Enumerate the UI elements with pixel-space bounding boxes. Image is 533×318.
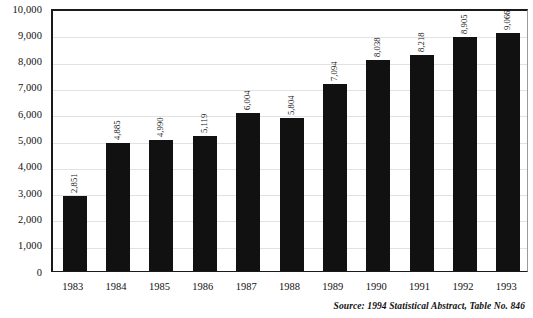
- bar-value-label: 8,218: [417, 22, 427, 52]
- y-axis-tick-label: 4,000: [18, 161, 42, 172]
- y-axis-tick-label: 0: [37, 267, 42, 278]
- bar-group[interactable]: 8,218: [410, 8, 434, 271]
- bar-group[interactable]: 6,004: [236, 8, 260, 271]
- bar-value-label: 8,038: [373, 27, 383, 57]
- bar[interactable]: [496, 33, 520, 271]
- bar[interactable]: [236, 113, 260, 271]
- bar[interactable]: [106, 143, 130, 271]
- bar-group[interactable]: 5,119: [193, 8, 217, 271]
- x-axis-tick-label: 1989: [311, 281, 354, 293]
- x-axis-tick-label: 1990: [355, 281, 398, 293]
- x-axis-tick-label: 1985: [138, 281, 181, 293]
- y-axis-tick-label: 8,000: [18, 56, 42, 67]
- x-axis-tick-label: 1983: [51, 281, 94, 293]
- x-axis-tick-label: 1986: [181, 281, 224, 293]
- bar-value-label: 9,066: [503, 0, 513, 30]
- plot-area: 2,8514,8854,9905,1196,0045,8047,0948,038…: [51, 9, 528, 272]
- y-axis-tick-label: 9,000: [18, 30, 42, 41]
- bar-group[interactable]: 4,990: [149, 8, 173, 271]
- y-axis-tick-label: 6,000: [18, 109, 42, 120]
- bar-value-label: 2,851: [70, 163, 80, 193]
- bar-group[interactable]: 2,851: [63, 8, 87, 271]
- y-axis-tick-label: 3,000: [18, 188, 42, 199]
- bar-group[interactable]: 9,066: [496, 8, 520, 271]
- x-axis-tick-label: 1991: [398, 281, 441, 293]
- bar[interactable]: [323, 84, 347, 271]
- bar-value-label: 6,004: [243, 80, 253, 110]
- bar-value-label: 7,094: [330, 51, 340, 81]
- x-axis-tick-label: 1993: [485, 281, 528, 293]
- y-axis: 01,0002,0003,0004,0005,0006,0007,0008,00…: [0, 0, 48, 285]
- bar-group[interactable]: 7,094: [323, 8, 347, 271]
- bar[interactable]: [366, 60, 390, 271]
- y-axis-tick-label: 1,000: [18, 240, 42, 251]
- bar[interactable]: [63, 196, 87, 271]
- bar-group[interactable]: 8,038: [366, 8, 390, 271]
- bar-group[interactable]: 8,905: [453, 8, 477, 271]
- x-axis-tick-label: 1988: [268, 281, 311, 293]
- bar-value-label: 4,990: [156, 107, 166, 137]
- bar[interactable]: [193, 136, 217, 271]
- x-axis-tick-label: 1987: [224, 281, 267, 293]
- bar-value-label: 5,804: [287, 85, 297, 115]
- y-axis-tick-label: 2,000: [18, 214, 42, 225]
- bar[interactable]: [453, 37, 477, 271]
- y-axis-tick-label: 10,000: [13, 4, 42, 15]
- x-axis: 1983198419851986198719881989199019911992…: [51, 281, 528, 297]
- x-axis-tick-label: 1984: [94, 281, 137, 293]
- bar-group[interactable]: 5,804: [280, 8, 304, 271]
- y-axis-tick-label: 7,000: [18, 82, 42, 93]
- bar[interactable]: [410, 55, 434, 271]
- bar[interactable]: [280, 118, 304, 271]
- bar-chart-figure: 01,0002,0003,0004,0005,0006,0007,0008,00…: [0, 0, 533, 318]
- bar-value-label: 5,119: [200, 103, 210, 133]
- bars-layer: 2,8514,8854,9905,1196,0045,8047,0948,038…: [53, 11, 527, 271]
- bar[interactable]: [149, 140, 173, 271]
- source-note: Source: 1994 Statistical Abstract, Table…: [334, 300, 525, 312]
- bar-value-label: 4,885: [113, 110, 123, 140]
- bar-value-label: 8,905: [460, 4, 470, 34]
- bar-group[interactable]: 4,885: [106, 8, 130, 271]
- x-axis-tick-label: 1992: [441, 281, 484, 293]
- y-axis-tick-label: 5,000: [18, 135, 42, 146]
